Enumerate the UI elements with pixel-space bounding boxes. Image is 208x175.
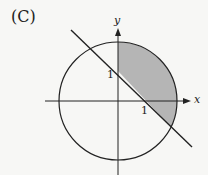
y-axis-label: y [114,15,120,26]
x-axis-arrow-icon [183,98,191,104]
diagram-canvas [0,0,208,175]
y-axis-arrow-icon [115,28,121,36]
x-tick-label: 1 [141,105,148,116]
x-axis-label: x [194,94,200,105]
y-tick-label: 1 [107,69,114,80]
panel-label: (C) [11,9,36,25]
